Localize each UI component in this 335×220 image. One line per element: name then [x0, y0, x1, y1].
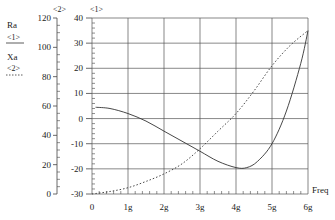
legend: Ra <1> Xa <2> [6, 20, 24, 75]
grid [92, 18, 308, 194]
x-tick-label: 5g [268, 202, 278, 212]
axis-1-tick-label: -10 [71, 139, 83, 149]
axis-1-tick-label: -20 [71, 164, 83, 174]
x-tick-label: 2g [160, 202, 170, 212]
x-tick-label: 0 [90, 202, 95, 212]
x-tick-label: 4g [232, 202, 242, 212]
axis-1-tick-label: 40 [74, 13, 84, 23]
axis-2-tick-label: 20 [42, 160, 52, 170]
axis-1-tick-label: 10 [74, 88, 84, 98]
legend-ra-label: Ra [7, 20, 17, 30]
axis-1-tick-label: 0 [79, 114, 84, 124]
axis-1-tick-label: -30 [71, 189, 83, 199]
axis-1-tick-label: 20 [74, 63, 84, 73]
axis-2-tick-label: 40 [42, 130, 52, 140]
x-tick-label: 3g [196, 202, 206, 212]
legend-xa-axis: <2> [7, 64, 21, 73]
y-axis-1: <1>403020100-10-20-30 [71, 5, 104, 199]
axis-2-tick-label: 60 [42, 101, 52, 111]
y-axis-2: <2>120100806040200 [38, 5, 67, 199]
x-axis-label: Freq [312, 185, 329, 195]
axis-2-tick-label: 100 [38, 42, 52, 52]
x-tick-label: 1g [124, 202, 134, 212]
x-tick-label: 6g [304, 202, 314, 212]
legend-ra-axis: <1> [7, 33, 21, 42]
chart: Ra <1> Xa <2> <2>120100806040200 <1>4030… [0, 0, 335, 220]
x-axis: 01g2g3g4g5g6gFreq [90, 185, 329, 212]
axis-2-tick-label: 0 [47, 189, 52, 199]
axis-2-tick-label: 120 [38, 13, 52, 23]
axis-1-title: <1> [90, 5, 104, 14]
legend-xa-label: Xa [7, 52, 18, 62]
series-ra-line [96, 31, 308, 169]
axis-2-tick-label: 80 [42, 72, 52, 82]
axis-1-tick-label: 30 [74, 38, 84, 48]
axis-2-title: <2> [53, 5, 67, 14]
